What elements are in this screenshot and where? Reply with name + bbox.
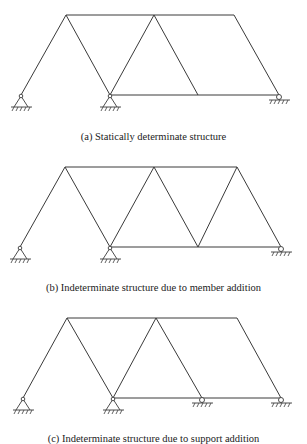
figure-c-truss: [13, 318, 292, 414]
member-right-leg: [234, 15, 279, 95]
member-left-leg: [21, 15, 66, 95]
figure-a-truss: [11, 15, 290, 111]
member-right-leg: [237, 318, 281, 398]
member-left-leg: [20, 167, 65, 247]
pin-support: [11, 94, 32, 111]
pin-support: [103, 397, 124, 414]
member-diagonal-3: [154, 167, 198, 247]
pin-support: [10, 246, 31, 263]
member-added-diagonal: [198, 167, 237, 247]
member-right-leg: [237, 167, 281, 247]
pin-support: [100, 94, 121, 111]
member-left-leg: [23, 318, 67, 398]
member-diagonal-2: [110, 15, 154, 95]
roller-support: [271, 247, 292, 257]
figure-b-truss: [10, 167, 292, 263]
member-diagonal-1: [65, 167, 110, 247]
member-diagonal-3: [156, 318, 202, 398]
pin-support: [13, 397, 34, 414]
caption-figure-b: (b) Indeterminate structure due to membe…: [0, 282, 307, 293]
caption-figure-a: (a) Statically determinate structure: [0, 131, 307, 142]
member-diagonal-2: [113, 318, 156, 398]
member-diagonal-1: [67, 318, 113, 398]
member-diagonal-3: [154, 15, 198, 95]
roller-support: [269, 95, 290, 105]
roller-support-added: [192, 398, 213, 408]
roller-support: [271, 398, 292, 408]
member-diagonal-2: [110, 167, 154, 247]
truss-diagrams: [0, 0, 307, 444]
member-diagonal-1: [66, 15, 110, 95]
pin-support: [100, 246, 121, 263]
caption-figure-c: (c) Indeterminate structure due to suppo…: [0, 433, 307, 444]
